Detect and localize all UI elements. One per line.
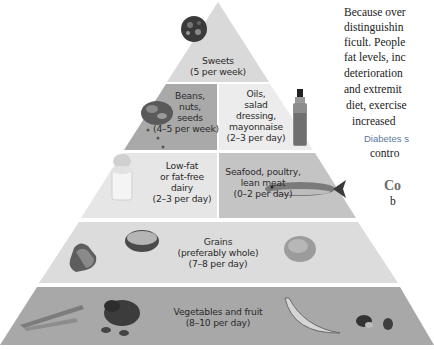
oil-bottle-icon (293, 89, 307, 146)
label-oils: Oils, salad dressing, mayonnaise (2–3 pe… (218, 88, 294, 143)
text-line: diet, exercise (346, 98, 407, 114)
text-line: fat levels, inc (344, 50, 406, 66)
label-dairy: Low-fat or fat-free dairy (2–3 per day) (144, 160, 220, 204)
label-line: (0–2 per day) (220, 188, 306, 199)
cookie-icon (181, 16, 207, 42)
label-line: Low-fat (144, 160, 220, 171)
text-line: distinguishin (344, 20, 403, 36)
label-line: seeds (160, 112, 220, 123)
label-line: (2–3 per day) (218, 132, 294, 143)
label-line: (8–10 per day) (166, 317, 270, 328)
label-line: Seafood, poultry, (220, 166, 306, 177)
label-line: (7–8 per day) (170, 258, 266, 269)
label-line: Vegetables and fruit (166, 306, 270, 317)
label-line: (5 per week) (178, 66, 258, 77)
highlight-term: Diabetes s (364, 131, 409, 147)
label-line: nuts, (160, 101, 220, 112)
cereal-bowl-icon (125, 230, 159, 252)
text-line: increased (352, 114, 395, 130)
label-line: (preferably whole) (170, 247, 266, 258)
rice-icon (284, 236, 316, 262)
label-sweets: Sweets (5 per week) (178, 55, 258, 77)
label-beans: Beans, nuts, seeds (4–5 per week) (160, 90, 220, 134)
text-line: ficult. People (344, 35, 405, 51)
label-line: (2–3 per day) (144, 193, 220, 204)
label-line: Grains (170, 236, 266, 247)
label-seafood: Seafood, poultry, lean meat (0–2 per day… (220, 166, 306, 199)
section-heading: Co (384, 178, 401, 194)
label-line: dressing, (218, 110, 294, 121)
label-line: or fat-free (144, 171, 220, 182)
text-line: contro (370, 146, 399, 162)
label-line: dairy (144, 182, 220, 193)
label-grains: Grains (preferably whole) (7–8 per day) (170, 236, 266, 269)
label-line: (4–5 per week) (152, 123, 220, 134)
text-line: deterioration (344, 66, 403, 82)
dairy-icon (111, 154, 133, 200)
text-line: b (390, 194, 396, 210)
label-line: Oils, (218, 88, 294, 99)
label-line: Sweets (178, 55, 258, 66)
text-line: Because over (344, 5, 406, 21)
text-line: and extremit (344, 82, 402, 98)
label-line: salad (218, 99, 294, 110)
label-line: lean meat (220, 177, 306, 188)
label-line: mayonnaise (218, 121, 294, 132)
label-vegetables: Vegetables and fruit (8–10 per day) (166, 306, 270, 328)
label-line: Beans, (160, 90, 220, 101)
